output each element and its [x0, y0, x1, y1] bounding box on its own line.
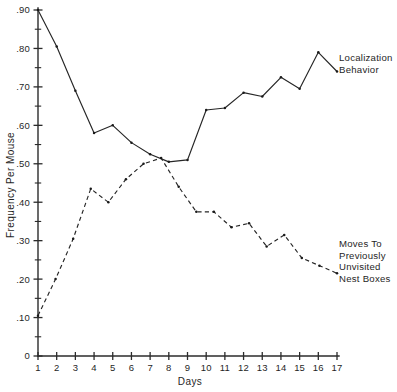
series-label-line: Previously	[339, 250, 391, 262]
data-point	[265, 245, 268, 248]
data-point	[283, 234, 286, 237]
data-point	[261, 95, 264, 98]
x-tick-label: 3	[73, 362, 78, 373]
data-point	[90, 188, 93, 191]
data-point	[37, 9, 40, 12]
data-point-markers	[37, 9, 339, 317]
data-point	[74, 89, 77, 92]
axes-group	[34, 8, 340, 360]
data-point	[248, 222, 251, 225]
data-point	[230, 226, 233, 229]
x-tick-label: 2	[54, 362, 59, 373]
series-label-line: Localization	[339, 52, 393, 64]
x-tick-label: 13	[257, 362, 268, 373]
data-point	[107, 201, 110, 204]
data-point	[54, 278, 57, 281]
data-point	[186, 159, 189, 162]
data-point	[336, 70, 339, 73]
y-tick-label: .30	[16, 235, 30, 246]
x-axis-tick-labels: 1234567891011121314151617	[35, 362, 342, 373]
data-point	[177, 186, 180, 189]
x-tick-label: 1	[35, 362, 40, 373]
data-point	[213, 211, 216, 214]
data-point	[160, 157, 163, 160]
y-tick-label: .50	[16, 158, 30, 169]
data-point	[142, 163, 145, 166]
data-point	[318, 264, 321, 267]
y-tick-label: .60	[16, 120, 30, 131]
series-line-moves-to-unvisited-nest-boxes	[38, 158, 337, 316]
x-axis-title: Days	[178, 376, 202, 387]
series-label-line: Nest Boxes	[339, 273, 391, 285]
y-tick-label: .40	[16, 197, 30, 208]
x-tick-label: 9	[185, 362, 190, 373]
x-tick-label: 17	[332, 362, 343, 373]
y-axis-title: Frequency Per Mouse	[5, 132, 16, 238]
series-line-localization-behavior	[38, 10, 337, 162]
data-point	[298, 88, 301, 91]
y-tick-label: .20	[16, 274, 30, 285]
x-tick-label: 8	[166, 362, 171, 373]
data-point	[125, 178, 128, 181]
x-tick-label: 12	[238, 362, 249, 373]
data-point	[224, 107, 227, 110]
x-tick-label: 6	[129, 362, 134, 373]
data-point	[205, 109, 208, 112]
y-tick-label: .90	[16, 4, 30, 15]
y-axis-tick-labels: 0.10.20.30.40.50.60.70.80.90	[16, 4, 30, 361]
data-point	[168, 161, 171, 164]
x-tick-label: 11	[220, 362, 230, 373]
x-tick-label: 16	[313, 362, 324, 373]
data-point	[301, 257, 304, 260]
data-point	[317, 51, 320, 54]
data-point	[37, 314, 40, 317]
series-label-localization-behavior: Localization Behavior	[339, 52, 393, 75]
chart-plot-area: 0.10.20.30.40.50.60.70.80.90 12345678910…	[0, 0, 397, 392]
y-tick-label: .10	[16, 312, 30, 323]
y-tick-label: .80	[16, 43, 30, 54]
data-point	[149, 153, 152, 156]
data-point	[112, 124, 115, 127]
data-point	[72, 237, 75, 240]
data-point	[280, 76, 283, 79]
data-point	[336, 272, 339, 275]
series-label-line: Behavior	[339, 64, 393, 76]
data-point	[195, 211, 198, 214]
data-series-group	[38, 10, 337, 316]
x-tick-label: 5	[110, 362, 115, 373]
chart-figure: 0.10.20.30.40.50.60.70.80.90 12345678910…	[0, 0, 397, 392]
x-tick-label: 4	[91, 362, 96, 373]
series-label-line: Moves To	[339, 238, 391, 250]
series-label-line: Unvisited	[339, 261, 391, 273]
y-tick-label: .70	[16, 81, 30, 92]
data-point	[242, 91, 245, 94]
x-tick-label: 14	[275, 362, 286, 373]
y-tick-label: 0	[25, 350, 30, 361]
data-point	[130, 141, 133, 144]
x-tick-label: 7	[147, 362, 152, 373]
data-point	[55, 45, 58, 48]
data-point	[93, 132, 96, 135]
series-label-moves-to-unvisited-nest-boxes: Moves To Previously Unvisited Nest Boxes	[339, 238, 391, 284]
x-tick-label: 10	[201, 362, 212, 373]
x-tick-label: 15	[294, 362, 305, 373]
